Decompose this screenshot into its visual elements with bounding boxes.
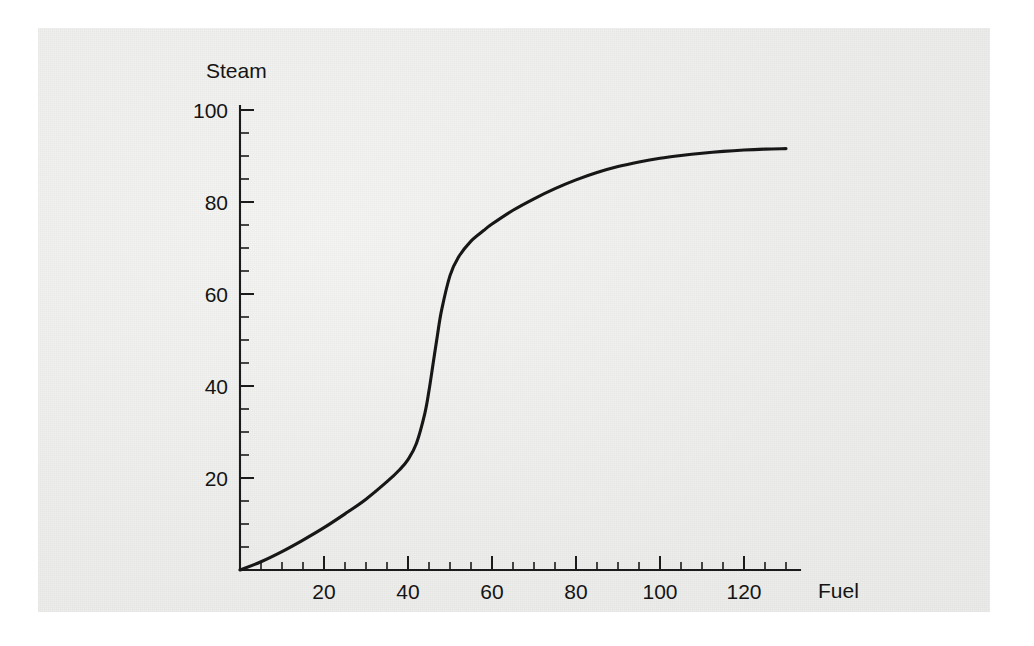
y-tick-label-40: 40 bbox=[205, 375, 228, 398]
y-tick-label-100: 100 bbox=[193, 99, 228, 122]
x-tick-label-120: 120 bbox=[726, 580, 761, 603]
x-tick-label-40: 40 bbox=[396, 580, 419, 603]
x-tick-label-60: 60 bbox=[480, 580, 503, 603]
y-tick-label-60: 60 bbox=[205, 283, 228, 306]
x-tick-label-80: 80 bbox=[564, 580, 587, 603]
page-canvas: 100 80 60 40 20 bbox=[0, 0, 1034, 646]
x-tick-label-100: 100 bbox=[642, 580, 677, 603]
x-tick-label-20: 20 bbox=[312, 580, 335, 603]
x-axis-title: Fuel bbox=[818, 579, 859, 602]
y-axis-minor-ticks bbox=[240, 133, 249, 547]
steam-vs-fuel-chart: 100 80 60 40 20 bbox=[0, 0, 1034, 646]
y-tick-label-80: 80 bbox=[205, 191, 228, 214]
y-tick-label-20: 20 bbox=[205, 467, 228, 490]
x-axis-minor-ticks bbox=[261, 562, 786, 570]
steam-response-curve bbox=[240, 149, 786, 570]
y-axis-title: Steam bbox=[206, 59, 267, 82]
y-axis-major-ticks bbox=[240, 110, 254, 478]
